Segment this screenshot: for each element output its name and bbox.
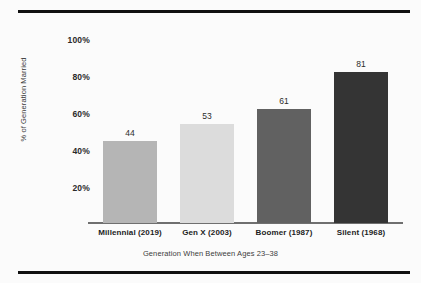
y-tick-label-60: 60% [44, 110, 90, 119]
y-axis-title: % of Generation Married [19, 40, 28, 160]
y-axis-tick-labels: 100% 80% 60% 40% 20% [40, 0, 90, 283]
bar-genx[interactable] [180, 124, 234, 223]
plot-area: 44 53 61 81 [95, 36, 395, 223]
x-tick-label-silent: Silent (1968) [306, 228, 416, 237]
bar-value-silent: 81 [334, 60, 388, 69]
bar-boomer[interactable] [257, 109, 311, 223]
y-tick-label-40: 40% [44, 147, 90, 156]
y-tick-label-20: 20% [44, 184, 90, 193]
bar-value-boomer: 61 [257, 97, 311, 106]
bar-millennial[interactable] [103, 141, 157, 223]
bar-value-millennial: 44 [103, 129, 157, 138]
chart-figure: 100% 80% 60% 40% 20% % of Generation Mar… [0, 0, 421, 283]
bar-silent[interactable] [334, 72, 388, 223]
y-tick-label-80: 80% [44, 73, 90, 82]
bar-value-genx: 53 [180, 112, 234, 121]
x-axis-title: Generation When Between Ages 23–38 [0, 249, 421, 258]
y-tick-label-100: 100% [44, 36, 90, 45]
